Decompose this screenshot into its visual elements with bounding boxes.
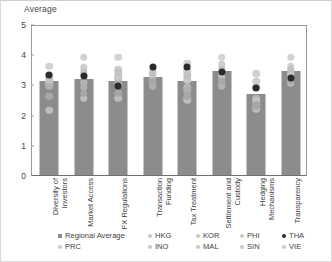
legend-marker-icon [148, 245, 152, 249]
data-point-tha [149, 63, 156, 70]
x-tick-label: FX Regulations [121, 178, 130, 230]
y-tick-label: 3 [0, 80, 30, 90]
legend-label: SIN [247, 242, 260, 251]
data-point-tha [115, 82, 122, 89]
data-point-sin [149, 70, 157, 78]
y-tick-label: 1 [0, 141, 30, 151]
legend-label: HKG [155, 231, 171, 240]
page-top-rule [0, 0, 332, 1]
legend-item-regional-average[interactable]: Regional Average [58, 231, 125, 240]
data-point-prc [46, 63, 54, 71]
legend-label: MAL [203, 242, 219, 251]
data-point-tha [287, 74, 294, 81]
y-tick-label: 4 [0, 50, 30, 60]
legend-marker-icon [196, 234, 200, 238]
legend-label: Regional Average [65, 231, 125, 240]
x-tick-label: Transaction Funding [156, 178, 173, 230]
y-tick-mark [31, 115, 34, 116]
data-point-vie [80, 90, 88, 98]
legend-label: INO [155, 242, 169, 251]
y-tick-mark [31, 145, 34, 146]
bar-group [32, 26, 67, 175]
legend-label: PRC [65, 242, 81, 251]
legend-label: VIE [289, 242, 301, 251]
data-point-sin [115, 69, 123, 77]
x-tick-label: Transparency [294, 178, 303, 230]
bar-group [205, 26, 240, 175]
bar [143, 77, 162, 175]
y-tick-label: 5 [0, 20, 30, 30]
data-point-tha [253, 85, 260, 92]
legend-item-hkg[interactable]: HKG [148, 231, 171, 240]
data-point-ino [46, 106, 54, 114]
legend-marker-icon [58, 234, 62, 238]
data-point-sin [184, 72, 192, 80]
data-point-tha [46, 72, 53, 79]
legend-marker-icon [148, 234, 152, 238]
data-point-prc [115, 53, 123, 61]
data-point-prc [253, 70, 261, 78]
legend-marker-icon [282, 234, 286, 238]
data-point-vie [149, 78, 157, 86]
data-point-vie [46, 93, 54, 101]
legend-item-kor[interactable]: KOR [196, 231, 219, 240]
chart-root: Average 012345 Diversity of InvestorsMar… [0, 0, 332, 262]
plot-area [31, 25, 307, 176]
legend-item-tha[interactable]: THA [282, 231, 304, 240]
legend-marker-icon [58, 245, 62, 249]
bar-group [274, 26, 309, 175]
legend-marker-icon [240, 234, 244, 238]
data-point-vie [218, 78, 226, 86]
data-point-sin [287, 66, 295, 74]
x-tick-label: Tax Treatment [190, 178, 199, 230]
legend-marker-icon [282, 245, 286, 249]
legend-label: PHI [247, 231, 260, 240]
data-point-tha [184, 64, 191, 71]
data-point-prc [80, 53, 88, 61]
legend-item-prc[interactable]: PRC [58, 242, 81, 251]
chart-legend: Regional AveragePRCHKGINOKORMALPHISINTHA… [0, 231, 332, 257]
x-tick-label: Diversity of Investors [52, 178, 69, 230]
y-tick-mark [31, 85, 34, 86]
legend-label: KOR [203, 231, 219, 240]
data-point-vie [253, 102, 261, 110]
data-point-prc [218, 53, 226, 61]
x-tick-label: Settlement and Custody [225, 178, 242, 230]
x-axis-labels: Diversity of InvestorsMarket AccessFX Re… [31, 178, 307, 230]
legend-item-phi[interactable]: PHI [240, 231, 260, 240]
y-tick-mark [31, 25, 34, 26]
bar-group [136, 26, 171, 175]
bar-group [170, 26, 205, 175]
x-tick-label: Hedging Mechanisms [259, 178, 276, 230]
data-point-prc [287, 53, 295, 61]
legend-marker-icon [196, 245, 200, 249]
y-tick-mark [31, 55, 34, 56]
y-tick-label: 2 [0, 111, 30, 121]
data-point-vie [184, 93, 192, 101]
legend-marker-icon [240, 245, 244, 249]
bar-group [239, 26, 274, 175]
data-point-tha [80, 72, 87, 79]
bar-group-container [32, 26, 306, 175]
legend-item-sin[interactable]: SIN [240, 242, 260, 251]
data-point-vie [115, 90, 123, 98]
x-tick-label: Market Access [87, 178, 96, 230]
legend-item-ino[interactable]: INO [148, 242, 169, 251]
bar-group [101, 26, 136, 175]
y-axis-title: Average [24, 4, 57, 14]
bar-group [67, 26, 102, 175]
legend-label: THA [289, 231, 304, 240]
data-point-tha [218, 68, 225, 75]
legend-item-mal[interactable]: MAL [196, 242, 219, 251]
legend-item-vie[interactable]: VIE [282, 242, 301, 251]
y-tick-label: 0 [0, 171, 30, 181]
